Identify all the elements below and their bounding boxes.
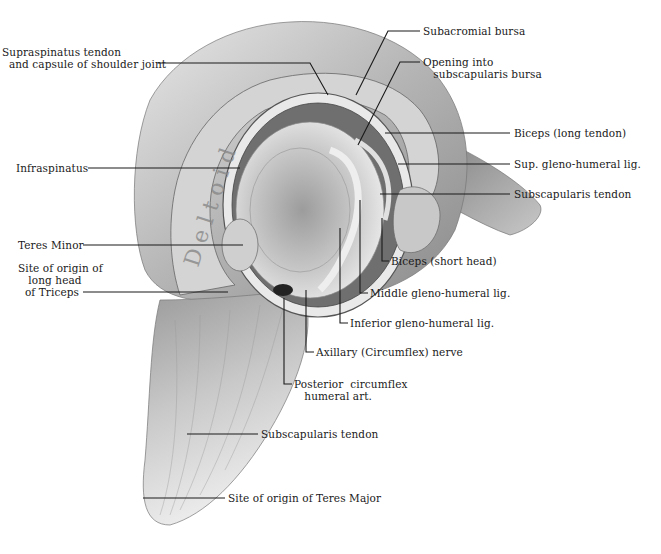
label-subscapularis-tendon-lower: Subscapularis tendon [261,428,378,440]
label-subscapularis-tendon-upper: Subscapularis tendon [514,188,631,200]
axillary-vessels [273,284,293,296]
scapula-muscles [143,290,308,525]
label-subacromial-bursa: Subacromial bursa [423,25,525,37]
label-triceps-origin: Site of origin of long head of Triceps [18,262,103,298]
label-biceps-short-head: Biceps (short head) [391,255,497,267]
label-supraspinatus: Supraspinatus tendon and capsule of shou… [2,46,166,70]
label-teres-minor: Teres Minor [18,239,84,251]
label-middle-gleno-humeral-lig: Middle gleno-humeral lig. [370,287,510,299]
label-biceps-long-tendon: Biceps (long tendon) [514,127,626,139]
label-inferior-gleno-humeral-lig: Inferior gleno-humeral lig. [350,317,494,329]
label-sup-gleno-humeral-lig: Sup. gleno-humeral lig. [514,158,641,170]
label-teres-major-origin: Site of origin of Teres Major [228,492,381,504]
label-posterior-circumflex-humeral-art: Posterior circumflex humeral art. [294,378,408,402]
label-infraspinatus: Infraspinatus [16,162,88,174]
shoulder-joint-diagram: D e l t o i d Supraspinatus tendon and c… [0,0,661,554]
glenoid-cavity [236,122,384,298]
label-axillary-nerve: Axillary (Circumflex) nerve [316,346,463,358]
label-opening-subscapularis-bursa: Opening into subscapularis bursa [423,56,542,80]
